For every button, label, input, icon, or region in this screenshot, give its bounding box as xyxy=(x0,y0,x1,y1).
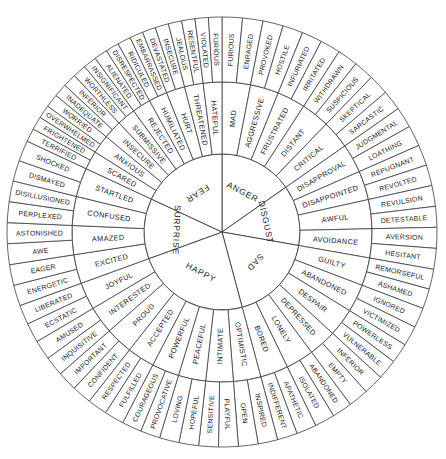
secondary-label-anger-mad: MAD xyxy=(228,109,239,127)
emotion-wheel-chart: MADFURIOUSENRAGEDAGGRESSIVEPROVOKEDHOSTI… xyxy=(0,0,446,459)
tertiary-label-disgust-avoidance-aversion: AVERSION xyxy=(386,233,423,241)
emotion-wheel-container: MADFURIOUSENRAGEDAGGRESSIVEPROVOKEDHOSTI… xyxy=(0,0,446,459)
tertiary-label-surprise-amazed-astonished: ASTONISHED xyxy=(16,229,63,236)
secondary-label-surprise-amazed: AMAZED xyxy=(92,233,125,244)
tertiary-label-fear-hateful-furious: FURIOUS xyxy=(212,33,220,66)
tertiary-label-happy-intimate-playful: PLAYFUL xyxy=(223,398,231,430)
wheel-sectors xyxy=(7,17,437,447)
secondary-label-happy-intimate: INTIMATE xyxy=(215,328,225,364)
